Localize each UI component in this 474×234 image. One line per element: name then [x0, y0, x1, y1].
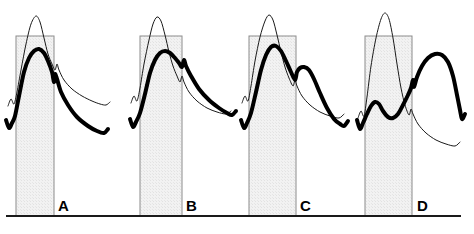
panel-label-d: D: [417, 197, 428, 214]
interval-bands-layer: [16, 36, 412, 216]
panel-label-c: C: [300, 197, 311, 214]
interval-band-d: [365, 36, 412, 216]
panel-label-a: A: [58, 197, 69, 214]
waveform-svg: ABCD: [0, 0, 474, 234]
interval-band-b: [140, 36, 182, 216]
panel-label-b: B: [186, 197, 197, 214]
waveform-figure: ABCD: [0, 0, 474, 234]
